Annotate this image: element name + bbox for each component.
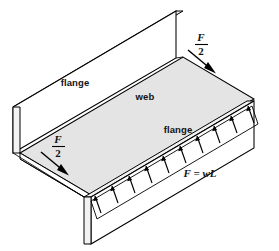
front-flange-left-end (84, 197, 91, 244)
web-label: web (135, 91, 155, 102)
shear-top-denominator: 2 (198, 45, 204, 57)
shear-bottom-denominator: 2 (55, 147, 61, 159)
back-flange-left-end (13, 107, 20, 153)
distributed-load-label: F = wL (183, 167, 217, 179)
shear-bottom-numerator: F (53, 133, 62, 145)
flange-top-label: flange (61, 77, 90, 88)
shear-top-numerator: F (196, 31, 205, 43)
figure-container: flange web flange F = wL F 2 F 2 (0, 0, 279, 251)
flange-front-label: flange (164, 124, 193, 135)
shear-force-top-right-label: F 2 (195, 31, 208, 57)
beam-diagram-svg: flange web flange F = wL F 2 F 2 (0, 0, 279, 251)
